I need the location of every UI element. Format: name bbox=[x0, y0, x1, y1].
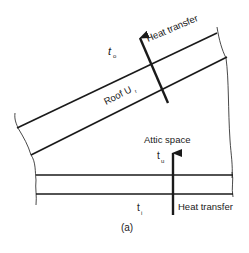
svg-text:u: u bbox=[161, 158, 164, 164]
attic-temp-label: t u bbox=[157, 150, 164, 164]
svg-text:t: t bbox=[137, 202, 140, 213]
roof-heat-label: Heat transfer bbox=[144, 12, 199, 44]
roof-inner-line bbox=[31, 57, 227, 155]
right-break-edge bbox=[217, 27, 232, 178]
ceiling-heat-label: Heat transfer bbox=[178, 201, 233, 212]
svg-text:o: o bbox=[113, 53, 117, 59]
diagram-svg: t o Heat transfer Roof U r Attic space t… bbox=[0, 0, 249, 253]
roof-outer-line bbox=[17, 33, 217, 128]
svg-text:Roof U: Roof U bbox=[102, 83, 133, 106]
indoor-temp-label: t i bbox=[137, 202, 142, 216]
outdoor-temp-label: t o bbox=[108, 45, 117, 59]
svg-text:t: t bbox=[157, 150, 160, 161]
svg-text:r: r bbox=[134, 88, 139, 94]
svg-text:i: i bbox=[141, 210, 142, 216]
svg-text:t: t bbox=[108, 45, 112, 57]
attic-heat-transfer-diagram: t o Heat transfer Roof U r Attic space t… bbox=[0, 0, 249, 253]
svg-text:Heat transfer: Heat transfer bbox=[144, 12, 199, 44]
attic-space-label: Attic space bbox=[144, 134, 190, 145]
figure-caption: (a) bbox=[121, 222, 133, 233]
